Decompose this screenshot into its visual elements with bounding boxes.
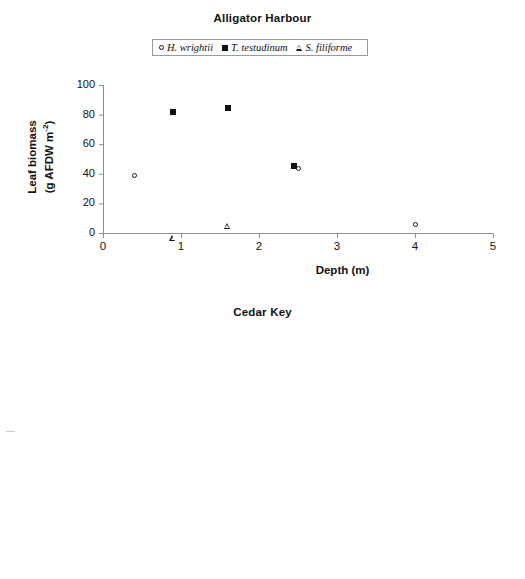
data-point [170, 101, 176, 119]
figure-alligator-harbour: Alligator Harbour H. wrightii T. testudi… [0, 0, 525, 290]
legend-entry-s-filiforme: S. filiforme [297, 42, 353, 53]
y-axis-title-line2-prefix: (g AFDW m [43, 132, 55, 194]
filled-square-icon [225, 105, 231, 111]
filled-square-icon [170, 109, 176, 115]
open-circle-icon [159, 45, 164, 50]
chart-title-cedar-key: Cedar Key [0, 306, 525, 318]
data-point [225, 97, 231, 115]
data-point [291, 155, 297, 173]
y-tick-label: 80 [61, 108, 95, 120]
data-point [224, 215, 230, 233]
legend-entry-t-testudinum: T. testudinum [222, 42, 287, 53]
open-circle-icon [413, 222, 418, 227]
legend-entry-h-wrightii: H. wrightii [159, 42, 213, 53]
y-axis-title-line2-suffix: ) [43, 121, 55, 125]
axes [103, 85, 507, 247]
y-tick-label: 40 [61, 167, 95, 179]
y-axis-title-exponent: -2 [41, 125, 50, 132]
filled-square-icon [222, 45, 228, 51]
open-triangle-icon [224, 223, 230, 229]
y-tick-label: 60 [61, 137, 95, 149]
y-tick-label: 100 [61, 78, 95, 90]
filled-square-icon [291, 163, 297, 169]
open-circle-icon [132, 173, 137, 178]
y-axis-title-alligator-harbour: Leaf biomass (g AFDW m-2) [26, 82, 56, 232]
legend-label-s-filiforme: S. filiforme [306, 42, 353, 53]
plot-area-alligator-harbour: 020406080100012345 [103, 85, 493, 233]
legend-alligator-harbour: H. wrightii T. testudinum S. filiforme [152, 39, 368, 56]
y-tick-label: 20 [61, 196, 95, 208]
open-triangle-icon [297, 45, 303, 51]
y-axis-title-line1: Leaf biomass [26, 82, 39, 232]
chart-title-alligator-harbour: Alligator Harbour [0, 12, 525, 24]
x-axis-title-alligator-harbour: Depth (m) [0, 264, 525, 276]
data-point [413, 213, 418, 231]
y-tick-label: 0 [61, 226, 95, 238]
data-point [132, 164, 137, 182]
figure-cedar-key: Cedar Key H. wrightii T. testudinum S. f… [0, 290, 525, 579]
data-point [170, 227, 176, 245]
legend-label-t-testudinum: T. testudinum [231, 42, 287, 53]
y-axis-title-line2: (g AFDW m-2) [39, 82, 56, 232]
scan-artifact-speck [6, 431, 15, 432]
legend-label-h-wrightii: H. wrightii [167, 42, 213, 53]
open-triangle-icon [170, 235, 176, 241]
